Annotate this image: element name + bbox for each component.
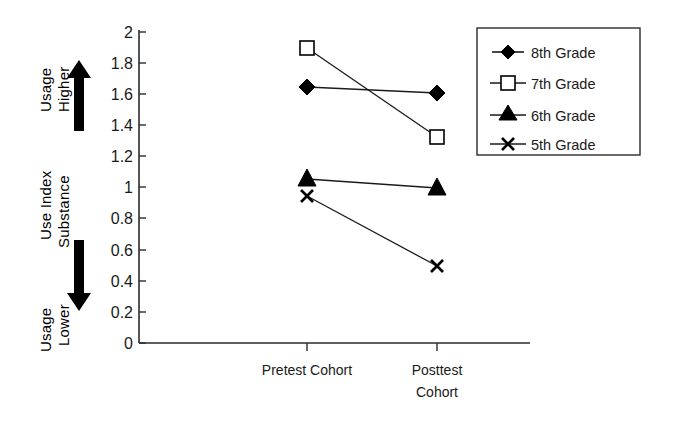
legend-item-8th-grade[interactable]: 8th Grade: [492, 45, 596, 61]
marker-filled-diamond: [299, 79, 315, 95]
legend-label: 6th Grade: [531, 108, 596, 124]
y-tick-label: 1.6: [111, 86, 133, 103]
marker-filled-diamond: [429, 85, 445, 101]
y-tick-label: 0.6: [111, 242, 133, 259]
y-tick-label: 1.2: [111, 148, 133, 165]
y-tick-label: 1: [124, 179, 133, 196]
plot-area: 2 1.8 1.6 1.4 1.2 1 0.8 0.6 0.4 0.2 0 Pr…: [0, 0, 673, 428]
series-line-6th-grade: [307, 179, 437, 188]
y-tick-label: 0.2: [111, 304, 133, 321]
legend-label: 7th Grade: [531, 76, 596, 92]
series-line-5th-grade: [307, 196, 437, 266]
series-lines: [307, 48, 437, 266]
x-axis-ticks: [307, 343, 437, 351]
y-axis-ticks: [139, 32, 146, 343]
marker-open-square: [300, 41, 314, 55]
chart-figure: Usage Use Index Usage Higher Substance L…: [0, 0, 673, 428]
legend-label: 5th Grade: [531, 137, 596, 153]
legend-label: 8th Grade: [531, 45, 596, 61]
y-tick-label: 2: [124, 24, 133, 41]
x-category-label-pretest: Pretest Cohort: [262, 362, 352, 378]
y-tick-label: 0: [124, 335, 133, 352]
legend-item-7th-grade[interactable]: 7th Grade: [490, 76, 596, 92]
y-tick-label: 1.8: [111, 55, 133, 72]
x-category-label-posttest-line2: Cohort: [416, 384, 458, 400]
legend: 8th Grade 7th Grade 6th Grade: [477, 28, 640, 155]
y-tick-label: 0.8: [111, 210, 133, 227]
open-square-icon: [501, 76, 515, 90]
marker-open-square: [430, 130, 444, 144]
y-axis-tick-labels: 2 1.8 1.6 1.4 1.2 1 0.8 0.6 0.4 0.2 0: [111, 24, 133, 352]
marker-filled-triangle: [298, 169, 316, 186]
y-tick-label: 1.4: [111, 117, 133, 134]
x-category-label-posttest-line1: Posttest: [412, 362, 463, 378]
x-axis-category-labels: Pretest Cohort Posttest Cohort: [262, 362, 463, 400]
marker-filled-triangle: [428, 178, 446, 195]
y-tick-label: 0.4: [111, 273, 133, 290]
series-markers-6th-grade: [298, 169, 446, 195]
